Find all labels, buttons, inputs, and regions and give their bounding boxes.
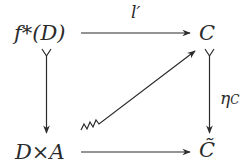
node-d-times-a: D×A	[15, 142, 65, 163]
label-eta-subscript: C	[230, 93, 239, 107]
label-l-prime: l′	[131, 4, 140, 21]
label-eta-c: ηC	[220, 90, 239, 107]
node-f-star-d: f*(D)	[14, 23, 66, 44]
left-monic-arrow	[42, 49, 51, 133]
node-c-tilde: C̃	[199, 140, 215, 161]
node-c: C	[199, 23, 215, 44]
commutative-diagram: f*(D) C D×A C̃ l′ ηC	[0, 0, 251, 166]
label-eta: η	[220, 88, 230, 108]
diagonal-squiggle-arrow	[81, 51, 195, 130]
right-monic-arrow	[205, 49, 214, 133]
